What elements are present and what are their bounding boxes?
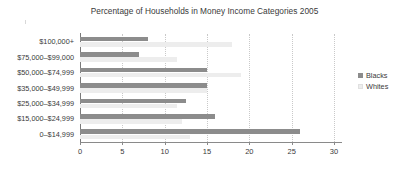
bar-whites bbox=[80, 73, 241, 78]
bar-blacks bbox=[80, 37, 148, 42]
legend-label-whites: Whites bbox=[366, 82, 388, 91]
x-tick-mark bbox=[249, 142, 250, 145]
bar-whites bbox=[80, 42, 232, 47]
bar-whites bbox=[80, 57, 177, 62]
category-label: $35,000–$49,999 bbox=[17, 84, 74, 93]
bar-blacks bbox=[80, 83, 207, 88]
x-tick-label: 0 bbox=[70, 147, 90, 156]
x-tick-mark bbox=[80, 142, 81, 145]
legend-item-whites[interactable]: Whites bbox=[358, 81, 388, 92]
bar-whites bbox=[80, 135, 190, 140]
bar-whites bbox=[80, 88, 207, 93]
bar-chart: Percentage of Households in Money Income… bbox=[0, 0, 409, 173]
bar-blacks bbox=[80, 129, 300, 134]
x-tick-label: 30 bbox=[324, 147, 344, 156]
category-label: 0–$14,999 bbox=[40, 130, 75, 139]
chart-title: Percentage of Households in Money Income… bbox=[0, 6, 409, 16]
x-tick-label: 10 bbox=[155, 147, 175, 156]
x-tick-label: 15 bbox=[197, 147, 217, 156]
x-tick-label: 20 bbox=[239, 147, 259, 156]
category-label: $50,000–$74,999 bbox=[17, 68, 74, 77]
x-tick-mark bbox=[292, 142, 293, 145]
legend-item-blacks[interactable]: Blacks bbox=[358, 70, 388, 81]
chart-legend: Blacks Whites bbox=[358, 70, 388, 92]
x-tick-label: 25 bbox=[282, 147, 302, 156]
bar-blacks bbox=[80, 68, 207, 73]
legend-label-blacks: Blacks bbox=[366, 71, 388, 80]
category-label: $100,000+ bbox=[39, 37, 74, 46]
legend-swatch-icon-blacks bbox=[358, 73, 363, 78]
x-tick-mark bbox=[165, 142, 166, 145]
category-label: $15,000–$24,999 bbox=[17, 114, 74, 123]
stray-scan-artifact bbox=[25, 20, 26, 24]
x-tick-mark bbox=[334, 142, 335, 145]
bar-blacks bbox=[80, 114, 215, 119]
bar-whites bbox=[80, 119, 182, 124]
x-tick-mark bbox=[207, 142, 208, 145]
gridline bbox=[207, 34, 208, 142]
legend-swatch-icon-whites bbox=[358, 84, 363, 89]
x-tick-mark bbox=[122, 142, 123, 145]
category-label: $75,000–$99,000 bbox=[17, 53, 74, 62]
gridline bbox=[334, 34, 335, 142]
gridline bbox=[292, 34, 293, 142]
x-tick-label: 5 bbox=[112, 147, 132, 156]
x-axis-line bbox=[80, 142, 342, 143]
gridline bbox=[249, 34, 250, 142]
category-label: $25,000–$34,999 bbox=[17, 99, 74, 108]
bar-blacks bbox=[80, 52, 139, 57]
bar-blacks bbox=[80, 99, 186, 104]
bar-whites bbox=[80, 104, 177, 109]
